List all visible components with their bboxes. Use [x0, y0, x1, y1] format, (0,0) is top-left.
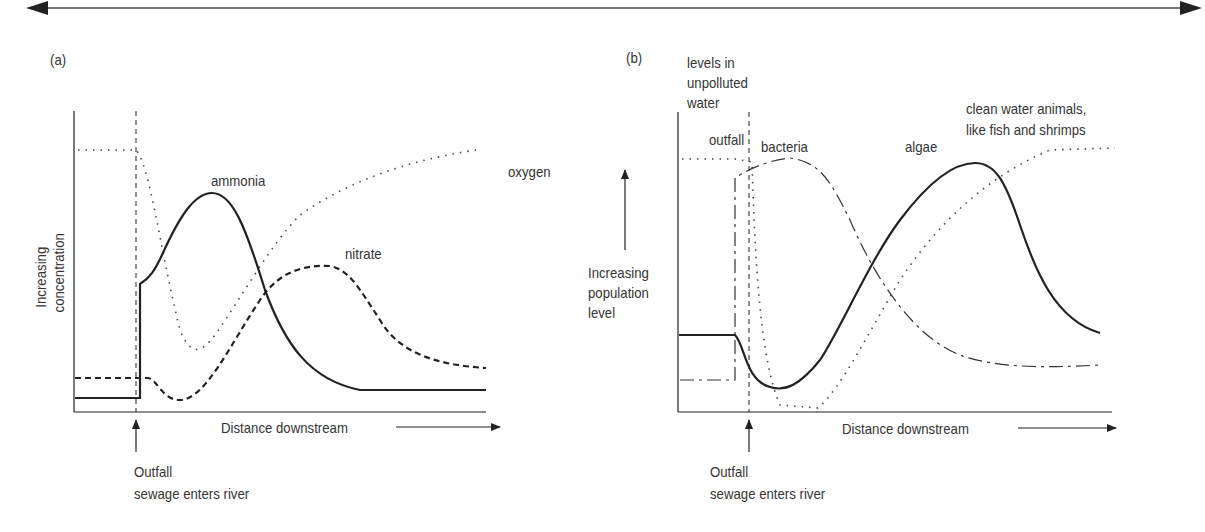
outfall-marker-label: outfall	[709, 131, 744, 149]
clean-animals-label-line2: like fish and shrimps	[966, 121, 1086, 139]
panel-b-y-axis-label-line3: level	[588, 304, 615, 322]
panel-b-letter: (b)	[626, 49, 642, 67]
panel-a-axes	[74, 111, 486, 412]
panel-b-algae-curve	[679, 163, 1100, 389]
ammonia-label: ammonia	[211, 172, 265, 190]
panel-a-x-axis-label: Distance downstream	[221, 419, 348, 437]
panel-a-letter: (a)	[50, 51, 66, 69]
top-bidirectional-arrow	[26, 1, 1202, 15]
clean-animals-label-line1: clean water animals,	[966, 100, 1086, 118]
panel-b-axes	[678, 112, 1112, 412]
panel-b-outfall-label-line1: Outfall	[710, 463, 748, 481]
panel-a-nitrate-curve	[75, 266, 486, 400]
unpolluted-label-line2: unpolluted	[687, 74, 748, 92]
panel-b-clean-animals-curve	[682, 148, 1115, 408]
panel-b-x-axis-label: Distance downstream	[842, 420, 969, 438]
panel-a-y-axis-label-line1: Increasing	[32, 224, 50, 330]
nitrate-label: nitrate	[345, 245, 382, 263]
oxygen-label: oxygen	[508, 163, 551, 181]
panel-a-outfall-label-line1: Outfall	[134, 463, 172, 481]
panel-b-y-axis-label-line1: Increasing	[588, 264, 649, 282]
algae-label: algae	[905, 138, 937, 156]
unpolluted-label-line1: levels in	[687, 54, 735, 72]
panel-b-y-axis-label-line2: population	[588, 284, 649, 302]
unpolluted-label-line3: water	[687, 94, 719, 112]
panel-a-ammonia-curve	[75, 193, 486, 398]
panel-a-y-axis-label-line2: concentration	[50, 216, 68, 330]
panel-b-outfall-label-line2: sewage enters river	[710, 485, 825, 503]
panel-a-outfall-label-line2: sewage enters river	[134, 485, 249, 503]
bacteria-label: bacteria	[761, 138, 808, 156]
